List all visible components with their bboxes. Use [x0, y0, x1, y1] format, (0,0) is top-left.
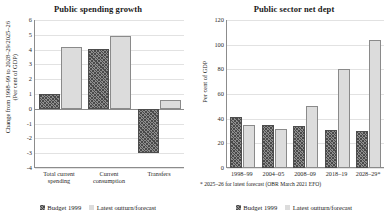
- y-axis-tick-label: 20: [218, 140, 224, 146]
- y-axis-tick-label: 120: [214, 17, 224, 23]
- bar: [338, 69, 350, 168]
- y-axis-tick-label: -3: [27, 150, 32, 156]
- y-axis-tick-label: 0: [221, 165, 224, 171]
- legend-label-budget-1999-right: Budget 1999: [243, 204, 277, 211]
- bar: [39, 94, 60, 109]
- x-axis-category-label: Total currentspending: [34, 170, 84, 184]
- y-axis-tick-label: 3: [29, 61, 32, 67]
- y-axis-label-left: Change from 1998–99 to 2028–29/2025–26 (…: [4, 12, 18, 142]
- bar: [243, 125, 255, 168]
- bar-group: [321, 20, 352, 167]
- y-axis-tick-label: 80: [218, 66, 224, 72]
- bar: [138, 109, 159, 153]
- bar: [61, 47, 82, 108]
- y-axis-tick-label: 0: [29, 106, 32, 112]
- legend-swatch-hatch-icon: [40, 205, 45, 210]
- x-axis-category-label: 1998–99: [226, 170, 258, 177]
- bar: [306, 106, 318, 168]
- y-axis-label-right: Per cent of GDP: [201, 42, 208, 122]
- legend-swatch-hatch-icon: [236, 205, 241, 210]
- bar-group: [353, 20, 384, 167]
- bar: [230, 117, 242, 168]
- bar: [160, 100, 181, 109]
- bar-series-right: [227, 20, 384, 167]
- plot-area-right: [226, 20, 384, 168]
- bar-group: [35, 20, 85, 167]
- y-axis-tick-label: 6: [29, 17, 32, 23]
- bar: [293, 126, 305, 168]
- x-axis-category-label: 2008–09: [289, 170, 321, 177]
- y-axis-tick-label: -2: [27, 135, 32, 141]
- bar-group: [227, 20, 258, 167]
- legend-item-latest-right: Latest outturn/forecast: [285, 204, 352, 211]
- bar: [88, 49, 109, 109]
- legend-swatch-light-icon: [89, 205, 94, 210]
- legend-item-budget-1999-right: Budget 1999: [236, 204, 277, 211]
- bar: [369, 40, 381, 168]
- bar-series-left: [35, 20, 184, 167]
- legend-item-latest-left: Latest outturn/forecast: [89, 204, 156, 211]
- bar: [356, 131, 368, 168]
- bar: [262, 125, 274, 168]
- x-axis-labels-right: 1998–992004–052008–092018–192028–29*: [226, 170, 384, 177]
- figure-container: Public spending growth Change from 1998–…: [0, 0, 392, 214]
- gridline: [35, 168, 184, 169]
- x-axis-category-label: 2028–29*: [352, 170, 384, 177]
- plot-area-left: [34, 20, 184, 168]
- chart-panel-public-sector-net-debt: Public sector net dept Per cent of GDP 1…: [196, 0, 392, 214]
- x-axis-category-label: Currentconsumption: [84, 170, 134, 184]
- legend-right: Budget 1999 Latest outturn/forecast: [196, 204, 392, 211]
- y-axis-tick-label: 1: [29, 91, 32, 97]
- chart-title-right: Public sector net dept: [196, 4, 392, 14]
- bar: [325, 130, 337, 168]
- bar-group: [85, 20, 135, 167]
- chart-title-left: Public spending growth: [0, 4, 196, 14]
- x-axis-category-label: 2018–19: [321, 170, 353, 177]
- footnote-right: * 2025–26 for latest forecast (OBR March…: [200, 181, 390, 188]
- bar-group: [290, 20, 321, 167]
- legend-label-latest-right: Latest outturn/forecast: [293, 204, 353, 211]
- x-axis-category-label: Transfers: [134, 170, 184, 184]
- legend-label-latest-left: Latest outturn/forecast: [97, 204, 157, 211]
- y-axis-tick-label: -4: [27, 165, 32, 171]
- y-axis-tick-label: 2: [29, 76, 32, 82]
- gridline: [227, 168, 384, 169]
- bar-group: [258, 20, 289, 167]
- y-axis-tick-label: 5: [29, 32, 32, 38]
- legend-left: Budget 1999 Latest outturn/forecast: [0, 204, 196, 211]
- chart-panel-public-spending-growth: Public spending growth Change from 1998–…: [0, 0, 196, 214]
- y-axis-tick-label: 4: [29, 46, 32, 52]
- bar: [275, 129, 287, 168]
- y-axis-tick-label: 60: [218, 91, 224, 97]
- x-axis-category-label: 2004–05: [258, 170, 290, 177]
- y-axis-tick-label: -1: [27, 120, 32, 126]
- bar-group: [134, 20, 184, 167]
- bar: [110, 36, 131, 109]
- y-axis-tick-label: 40: [218, 115, 224, 121]
- y-axis-tick-label: 100: [214, 41, 224, 47]
- x-axis-labels-left: Total currentspendingCurrentconsumptionT…: [34, 170, 184, 184]
- legend-swatch-light-icon: [285, 205, 290, 210]
- y-axis-label-left-line1: Change from 1998–99 to 2028–29/2025–26: [4, 21, 11, 133]
- legend-item-budget-1999-left: Budget 1999: [40, 204, 81, 211]
- y-axis-label-left-line2: (Per cent of GDP): [11, 12, 18, 142]
- legend-label-budget-1999-left: Budget 1999: [47, 204, 81, 211]
